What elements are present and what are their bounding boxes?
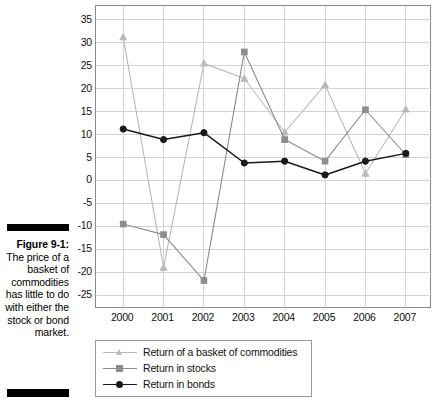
y-axis-tick: 0 <box>66 173 92 185</box>
caption-rule-bottom <box>7 389 69 397</box>
y-axis-tick: 5 <box>66 151 92 163</box>
y-axis-tick: 30 <box>66 36 92 48</box>
y-axis-tick: 25 <box>66 59 92 71</box>
legend-item-bonds: Return in bonds <box>103 377 215 391</box>
chart-legend: Return of a basket of commodities Return… <box>95 340 312 397</box>
y-axis-tick-labels: 35302520151050-5-10-15-20-25 <box>62 0 92 406</box>
y-axis-tick: 35 <box>66 13 92 25</box>
x-axis-tick: 2004 <box>272 311 295 323</box>
x-axis-tick: 2002 <box>192 311 215 323</box>
legend-swatch-bonds-icon <box>103 378 137 390</box>
chart-plot-frame <box>95 5 431 308</box>
legend-label-commodities: Return of a basket of commodities <box>143 346 297 358</box>
legend-label-stocks: Return in stocks <box>143 362 216 374</box>
legend-swatch-stocks-icon <box>103 362 137 374</box>
y-axis-tick: 20 <box>66 82 92 94</box>
legend-swatch-commodities-icon <box>103 346 137 358</box>
x-axis-tick: 2005 <box>313 311 336 323</box>
y-axis-tick: -10 <box>66 219 92 231</box>
x-axis-tick: 2003 <box>232 311 255 323</box>
x-axis-tick: 2001 <box>151 311 174 323</box>
y-axis-tick: -15 <box>66 242 92 254</box>
y-axis-tick: -20 <box>66 265 92 277</box>
figure-caption-text: The price of a basket of commodities has… <box>0 251 69 339</box>
legend-item-stocks: Return in stocks <box>103 361 216 375</box>
chart-plot-area <box>96 6 432 309</box>
caption-rule-top <box>7 224 69 231</box>
legend-label-bonds: Return in bonds <box>143 378 215 390</box>
legend-item-commodities: Return of a basket of commodities <box>103 345 297 359</box>
y-axis-tick: -5 <box>66 196 92 208</box>
figure-number-label: Figure 9-1: <box>0 238 69 251</box>
x-axis-tick-labels: 20002001200220032004200520062007 <box>95 311 431 327</box>
y-axis-tick: 15 <box>66 105 92 117</box>
x-axis-tick: 2006 <box>353 311 376 323</box>
x-axis-tick: 2000 <box>111 311 134 323</box>
y-axis-tick: -25 <box>66 288 92 300</box>
x-axis-tick: 2007 <box>394 311 417 323</box>
y-axis-tick: 10 <box>66 128 92 140</box>
